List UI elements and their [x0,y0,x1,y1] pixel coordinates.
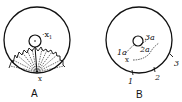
label-2a: 2a [139,45,150,54]
inner-center-dot-a [34,40,36,42]
label-x-edge: x [38,75,42,83]
tick-label-3: 3 [174,59,179,68]
label-3a: 3a [145,33,155,42]
outer-circle-a [4,7,70,73]
caption-b: B [136,89,143,100]
caption-a: A [31,88,38,99]
tick-label-2: 2 [154,73,160,82]
outer-circle-b [106,7,172,73]
tick-label-1: 1 [128,77,133,86]
figure-a: ·x1 x A [4,7,70,99]
path-1a [126,45,134,53]
label-x1: ·x1 [42,30,52,40]
label-x-start: x [125,56,129,64]
diagram-canvas: ·x1 x A 3a 1a 2a x 1 2 3 B [0,0,182,102]
figure-b: 3a 1a 2a x 1 2 3 B [106,7,179,100]
sawtooth-edge-a [9,47,65,68]
